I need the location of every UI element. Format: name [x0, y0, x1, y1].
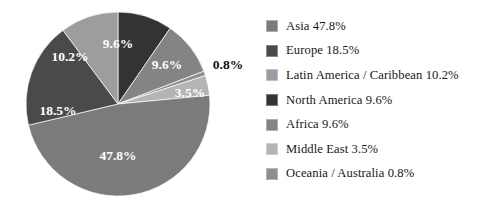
pie-slice-label: 9.6% [103, 36, 133, 51]
legend-color-swatch [266, 94, 278, 106]
legend-item[interactable]: Oceania / Australia 0.8% [266, 162, 495, 187]
pie-slice-label: 10.2% [51, 49, 88, 64]
legend-item[interactable]: Africa 9.6% [266, 112, 495, 137]
pie-slice-label: 47.8% [99, 148, 136, 163]
pie-chart-region: 9.6%9.6%0.8%3.5%47.8%18.5%10.2% [0, 0, 250, 213]
legend-item-label: Europe 18.5% [286, 43, 359, 58]
legend-color-swatch [266, 119, 278, 131]
chart-legend: Asia 47.8%Europe 18.5%Latin America / Ca… [266, 14, 495, 186]
legend-item-label: Africa 9.6% [286, 117, 349, 132]
legend-item[interactable]: Latin America / Caribbean 10.2% [266, 63, 495, 88]
legend-color-swatch [266, 20, 278, 32]
legend-color-swatch [266, 168, 278, 180]
legend-color-swatch [266, 45, 278, 57]
legend-item[interactable]: Asia 47.8% [266, 14, 495, 39]
legend-color-swatch [266, 143, 278, 155]
legend-item[interactable]: Middle East 3.5% [266, 137, 495, 162]
pie-slice-label: 3.5% [175, 85, 205, 100]
pie-chart-svg: 9.6%9.6%0.8%3.5%47.8%18.5%10.2% [0, 0, 250, 213]
legend-item[interactable]: Europe 18.5% [266, 39, 495, 64]
legend-item-label: North America 9.6% [286, 93, 392, 108]
pie-slice-label: 9.6% [152, 57, 182, 72]
legend-item-label: Middle East 3.5% [286, 142, 378, 157]
pie-chart-page: 9.6%9.6%0.8%3.5%47.8%18.5%10.2% Asia 47.… [0, 0, 495, 213]
pie-slice-label: 18.5% [39, 103, 76, 118]
legend-color-swatch [266, 69, 278, 81]
legend-item[interactable]: North America 9.6% [266, 88, 495, 113]
legend-item-label: Asia 47.8% [286, 19, 346, 34]
legend-item-label: Latin America / Caribbean 10.2% [286, 68, 459, 83]
legend-item-label: Oceania / Australia 0.8% [286, 166, 414, 181]
pie-slice-label: 0.8% [213, 57, 243, 72]
